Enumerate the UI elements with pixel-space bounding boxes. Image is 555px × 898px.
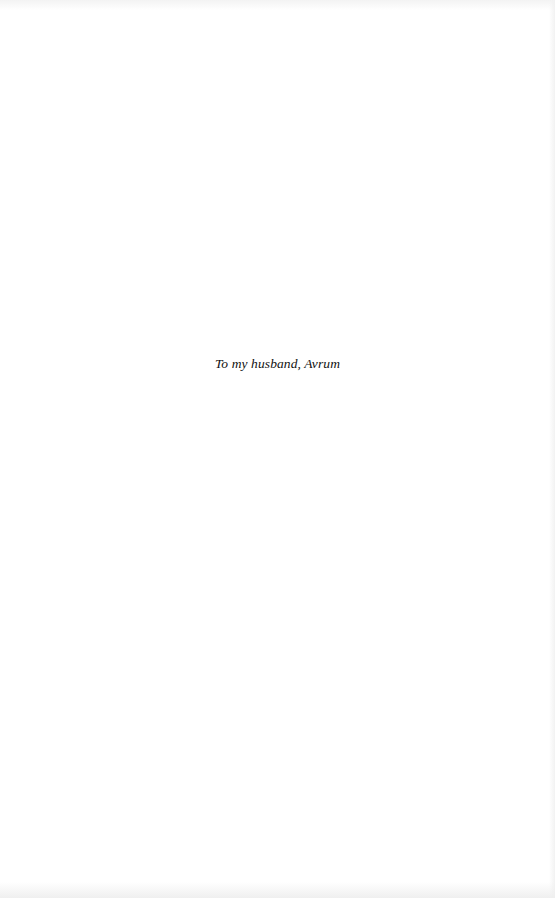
scan-shadow-right bbox=[549, 0, 555, 898]
scan-shadow-bottom bbox=[0, 882, 555, 898]
dedication-text: To my husband, Avrum bbox=[0, 356, 555, 372]
scan-shadow-top bbox=[0, 0, 555, 10]
book-page: To my husband, Avrum bbox=[0, 0, 555, 898]
